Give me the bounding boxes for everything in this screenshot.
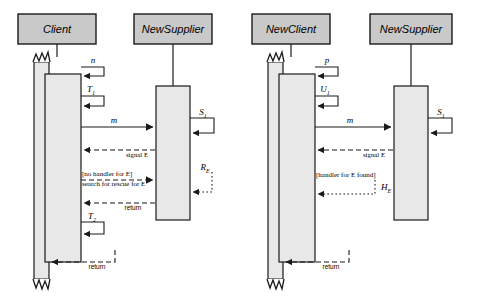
activation-client-inner xyxy=(45,74,81,262)
activation-supplier2 xyxy=(394,86,428,220)
activation-newclient-inner xyxy=(279,74,315,262)
message-label-m: m xyxy=(111,115,118,125)
panel-left: Client NewSupplier xyxy=(18,14,214,289)
lifeline-head-supplier: NewSupplier xyxy=(134,14,212,86)
message-p: p xyxy=(315,55,338,76)
message-m-right: m xyxy=(315,115,391,127)
message-label-search-rescue: search for rescue for E xyxy=(82,180,145,188)
panel-right: NewClient NewSupplier xyxy=(252,14,452,289)
message-label-s1-right: S1 xyxy=(437,107,445,119)
sequence-diagram-root: Client NewSupplier xyxy=(0,0,479,297)
lifeline-label-client: Client xyxy=(43,23,72,35)
message-signal-e: signal E xyxy=(84,150,155,158)
message-label-re: RE xyxy=(199,162,210,174)
message-label-u1: U1 xyxy=(320,84,330,96)
message-he: HE xyxy=(318,180,391,194)
diagram-canvas: Client NewSupplier xyxy=(0,0,479,297)
message-re: RE xyxy=(193,162,212,192)
message-s1: S1 xyxy=(190,107,214,133)
message-label-s1: S1 xyxy=(199,107,207,119)
message-u1: U1 xyxy=(315,84,338,106)
guard-label-handler-found: [handler for E found] xyxy=(316,171,376,179)
lifeline-label-newclient: NewClient xyxy=(266,23,317,35)
lifeline-head-client: Client xyxy=(18,14,96,57)
lifeline-label-supplier2: NewSupplier xyxy=(380,23,444,35)
guard-label-no-handler: [no handler for E] xyxy=(82,170,132,178)
message-label-return-2: return xyxy=(89,263,106,270)
guard-handler-found: [handler for E found] xyxy=(316,171,376,179)
message-m: m xyxy=(81,115,153,127)
message-n: n xyxy=(81,55,104,76)
lifeline-head-newclient: NewClient xyxy=(252,14,330,57)
message-return-1: return xyxy=(84,203,155,211)
message-label-p: p xyxy=(324,55,330,65)
message-label-he: HE xyxy=(380,182,392,194)
message-label-return-3: return xyxy=(323,263,340,270)
message-t2: T2 xyxy=(81,211,104,234)
message-label-m-right: m xyxy=(347,115,354,125)
activation-supplier xyxy=(156,86,190,220)
message-label-n: n xyxy=(91,55,96,65)
lifeline-head-supplier2: NewSupplier xyxy=(370,14,452,86)
message-t1: T1 xyxy=(81,84,104,106)
message-label-signal-e-right: signal E xyxy=(363,151,385,158)
message-signal-e-right: signal E xyxy=(318,150,393,158)
message-label-t2: T2 xyxy=(88,211,96,223)
message-label-t1: T1 xyxy=(87,84,95,96)
message-search-rescue: [no handler for E] search for rescue for… xyxy=(81,170,153,188)
message-s1-right: S1 xyxy=(428,107,452,133)
lifeline-label-supplier: NewSupplier xyxy=(142,23,206,35)
message-label-return-1: return xyxy=(125,204,142,211)
message-label-signal-e: signal E xyxy=(126,151,148,158)
